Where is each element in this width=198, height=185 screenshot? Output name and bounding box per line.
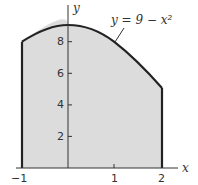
equation-leader (115, 28, 124, 42)
y-tick-6: 6 (57, 67, 64, 80)
shaded-region (22, 19, 162, 168)
x-tick-neg1: −1 (11, 172, 27, 185)
x-axis-label: x (182, 161, 189, 175)
y-tick-8: 8 (57, 35, 64, 48)
y-tick-4: 4 (57, 98, 64, 111)
x-tick-1: 1 (111, 172, 118, 185)
equation-label: y = 9 − x² (110, 13, 173, 27)
y-tick-2: 2 (57, 130, 64, 143)
y-axis-label: y (72, 1, 80, 15)
chart: 8 6 4 2 −1 1 2 y x y = 9 − x² (0, 0, 198, 185)
x-tick-2: 2 (158, 172, 165, 185)
